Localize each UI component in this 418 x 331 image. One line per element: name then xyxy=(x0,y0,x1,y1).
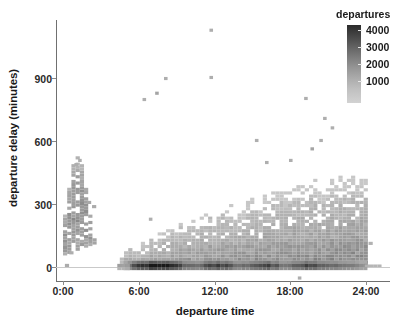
colorbar-tick-mark-4000 xyxy=(358,30,362,31)
y-tick-label-900: 900 xyxy=(18,73,52,85)
colorbar-tick-mark-2000 xyxy=(358,64,362,65)
x-tick-label-18: 18:00 xyxy=(260,285,320,297)
colorbar-tick-mark-1000 xyxy=(358,81,362,82)
y-tick-label-600: 600 xyxy=(18,136,52,148)
colorbar-legend: departures 4000 3000 2000 1000 xyxy=(336,8,418,110)
y-tick-label-0: 0 xyxy=(18,262,52,274)
colorbar-tick-mark-3000 xyxy=(358,47,362,48)
x-tick-label-24: 24:00 xyxy=(336,285,396,297)
y-tick-label-300: 300 xyxy=(18,199,52,211)
x-axis-line xyxy=(56,281,390,282)
colorbar-tick-label-3000: 3000 xyxy=(366,41,406,53)
x-tick-label-12: 12:00 xyxy=(185,285,245,297)
colorbar-tick-label-1000: 1000 xyxy=(366,75,406,87)
colorbar-title: departures xyxy=(336,8,418,20)
chart-figure: departure delay (minutes) 900 600 300 0 … xyxy=(0,0,418,331)
x-axis-label: departure time xyxy=(63,305,367,317)
x-tick-label-6: 6:00 xyxy=(109,285,169,297)
x-tick-label-0: 0:00 xyxy=(33,285,93,297)
colorbar-tick-label-2000: 2000 xyxy=(366,58,406,70)
y-axis-ticks: 900 600 300 0 xyxy=(14,0,52,290)
colorbar-tick-label-4000: 4000 xyxy=(366,24,406,36)
